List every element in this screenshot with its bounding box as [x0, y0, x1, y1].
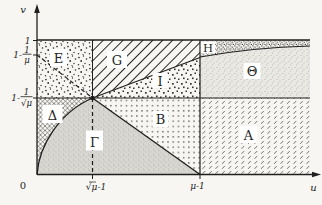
- svg-text:√μ: √μ: [21, 98, 32, 108]
- region-label-E: E: [54, 51, 64, 66]
- region-label-H: H: [203, 41, 213, 55]
- region-label-G: G: [112, 53, 122, 68]
- svg-text:1-: 1-: [11, 93, 20, 103]
- region-label-B: B: [156, 112, 166, 127]
- u-axis-label: u: [310, 182, 316, 193]
- svg-text:1-: 1-: [13, 50, 22, 60]
- region-E: [37, 40, 93, 98]
- v-axis-label: v: [20, 4, 26, 15]
- svg-text:√μ-1: √μ-1: [86, 182, 106, 192]
- origin-label: 0: [20, 180, 26, 191]
- region-label-A: A: [243, 128, 254, 143]
- region-label-gamma: Γ: [90, 135, 99, 150]
- region-diagram: E G H I Θ B A Δ Γ v u 0 1 1- 1 μ 1- 1 √μ…: [0, 0, 322, 205]
- region-label-delta: Δ: [48, 108, 57, 123]
- intersection-point: [90, 96, 95, 101]
- svg-text:1: 1: [24, 87, 29, 97]
- svg-text:μ: μ: [24, 55, 30, 65]
- region-label-I: I: [157, 74, 162, 89]
- region-label-theta: Θ: [247, 64, 258, 79]
- figure-container: E G H I Θ B A Δ Γ v u 0 1 1- 1 μ 1- 1 √μ…: [0, 0, 322, 205]
- u-tick-label-mu-minus-1: μ-1: [190, 181, 205, 191]
- u-tick-label-sqrt-mu-minus-1: √μ-1: [86, 182, 106, 192]
- svg-text:1: 1: [24, 45, 29, 55]
